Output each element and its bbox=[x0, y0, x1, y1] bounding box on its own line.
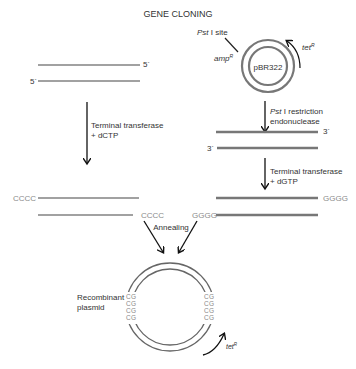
recombinant-tet-label: tetR bbox=[226, 342, 238, 350]
junction-base: G bbox=[131, 314, 136, 321]
right-bottom-g-tail: GGGG bbox=[192, 211, 217, 220]
recombinant-tet-arrow bbox=[203, 334, 224, 355]
top-5-prime-label: 5´ bbox=[143, 60, 150, 69]
recombinant-plasmid: C C C C G G G G C C C C G G G G Recombin… bbox=[77, 263, 238, 355]
right-step1-line1: Pst I restriction bbox=[270, 107, 323, 116]
junction-base: G bbox=[209, 300, 214, 307]
right-step2-line2: + dGTP bbox=[270, 177, 298, 186]
junction-base: G bbox=[131, 293, 136, 300]
right-top-g-tail: GGGG bbox=[323, 194, 348, 203]
junction-base: G bbox=[209, 293, 214, 300]
diagram-title: GENE CLONING bbox=[143, 9, 212, 19]
gene-cloning-diagram: GENE CLONING 5´ 5´ pBR322 Pst I site amp… bbox=[0, 0, 356, 369]
pst-site-pointer bbox=[225, 38, 238, 52]
left-step-line1: Terminal transferase bbox=[91, 121, 164, 130]
right-step1-line2: endonuclease bbox=[270, 117, 320, 126]
g-tailed-plasmid: GGGG GGGG bbox=[192, 194, 348, 220]
top-3-prime-label: 3´ bbox=[323, 127, 330, 136]
plasmid-name: pBR322 bbox=[254, 63, 283, 72]
junction-base: G bbox=[209, 307, 214, 314]
c-tailed-dna: CCCC CCCC bbox=[13, 194, 164, 220]
annealing-label: Annealing bbox=[153, 223, 189, 232]
junction-base: G bbox=[209, 314, 214, 321]
linearized-plasmid: 3´ 3´ bbox=[207, 127, 330, 153]
amp-resistance-label: ampR bbox=[214, 53, 234, 63]
left-step-line2: + dCTP bbox=[91, 131, 118, 140]
right-junction-tails: C C C C G G G G bbox=[204, 293, 214, 321]
left-junction-tails: C C C C G G G G bbox=[126, 293, 136, 321]
pst-site-label: Pst I site bbox=[197, 28, 228, 37]
left-bottom-c-tail: CCCC bbox=[141, 211, 164, 220]
tet-resistance-label: tetR bbox=[302, 42, 315, 52]
recombinant-label-line1: Recombinant bbox=[77, 293, 125, 302]
foreign-dna: 5´ 5´ bbox=[30, 60, 150, 86]
junction-base: G bbox=[131, 300, 136, 307]
left-top-c-tail: CCCC bbox=[13, 194, 36, 203]
bottom-5-prime-label: 5´ bbox=[30, 77, 37, 86]
recombinant-outer-ring bbox=[126, 263, 214, 351]
recombinant-inner-ring bbox=[132, 269, 208, 345]
bottom-3-prime-label: 3´ bbox=[207, 144, 214, 153]
pbr322-plasmid: pBR322 Pst I site ampR tetR bbox=[197, 28, 315, 92]
right-step2-line1: Terminal transferase bbox=[270, 167, 343, 176]
recombinant-label-line2: plasmid bbox=[77, 303, 105, 312]
junction-base: G bbox=[131, 307, 136, 314]
